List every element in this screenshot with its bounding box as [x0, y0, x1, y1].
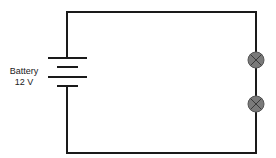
top-wire	[67, 12, 256, 58]
battery-label: Battery 12 V	[4, 66, 44, 88]
lamp-2	[248, 96, 264, 112]
wires	[67, 12, 256, 153]
lamp-1	[248, 52, 264, 68]
battery-symbol	[48, 58, 87, 86]
battery-name: Battery	[4, 66, 44, 77]
bottom-wire	[67, 86, 256, 153]
battery-voltage: 12 V	[4, 77, 44, 88]
